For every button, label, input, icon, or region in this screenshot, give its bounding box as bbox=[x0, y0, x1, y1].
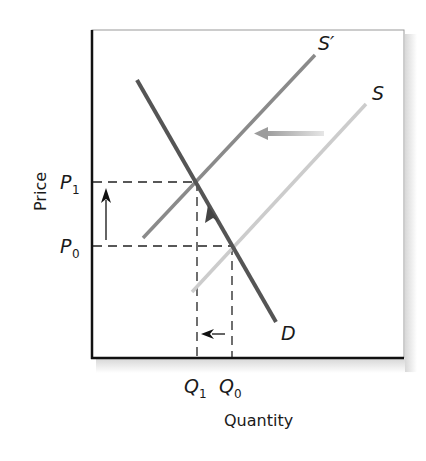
supply-demand-diagram: S′ S D P 1 P 0 Q 1 Q 0 Quantity Price bbox=[0, 0, 426, 461]
tick-p1-main: P bbox=[60, 171, 72, 193]
tick-q0-sub: 0 bbox=[234, 387, 242, 401]
tick-p1: P 1 bbox=[60, 171, 80, 197]
tick-q1: Q 1 bbox=[184, 375, 207, 401]
tick-q0: Q 0 bbox=[219, 375, 242, 401]
tick-p0-sub: 0 bbox=[72, 247, 80, 261]
y-axis-title: Price bbox=[31, 172, 50, 211]
label-d: D bbox=[281, 322, 296, 344]
tick-q0-main: Q bbox=[219, 375, 234, 397]
label-s: S bbox=[372, 82, 384, 104]
tick-q1-sub: 1 bbox=[199, 387, 207, 401]
tick-p1-sub: 1 bbox=[72, 183, 80, 197]
tick-p0-main: P bbox=[60, 235, 72, 257]
tick-q1-main: Q bbox=[184, 375, 199, 397]
frame-shadow-bottom bbox=[96, 359, 414, 373]
label-s-prime: S′ bbox=[318, 32, 335, 54]
frame-shadow-right bbox=[405, 34, 417, 372]
x-axis-title: Quantity bbox=[224, 411, 293, 430]
supply-shift-arrow-shaft bbox=[266, 131, 324, 136]
tick-p0: P 0 bbox=[60, 235, 80, 261]
